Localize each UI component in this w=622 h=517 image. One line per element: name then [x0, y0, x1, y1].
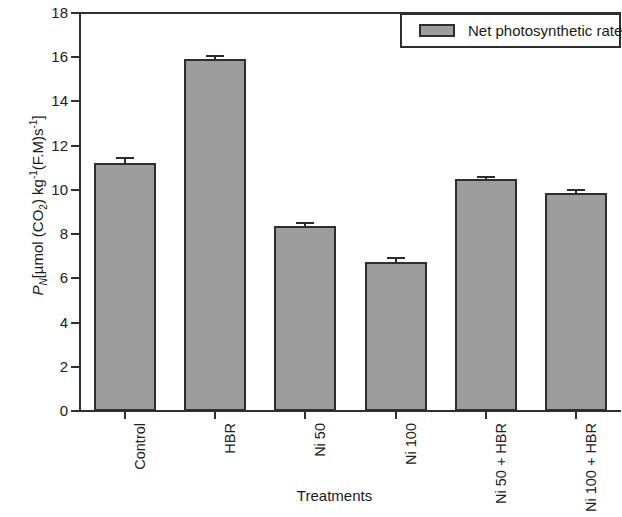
error-bar-cap: [567, 189, 585, 191]
plot-area: [80, 13, 621, 411]
y-axis-co2-subscript: 2: [38, 204, 49, 210]
x-axis-tick-label: Ni 50: [312, 423, 328, 457]
bar-ni-100-hbr: [545, 193, 607, 411]
bar-ni-50: [274, 226, 336, 411]
y-axis-tick: [71, 410, 80, 412]
legend-swatch-net-photosynthetic-rate: [419, 24, 455, 37]
x-axis-tick: [575, 411, 577, 419]
x-axis-tick-label: HBR: [222, 423, 238, 454]
error-bar-cap: [387, 257, 405, 259]
y-axis-tick: [71, 56, 80, 58]
x-axis-tick-label: Control: [132, 423, 148, 470]
y-axis-symbol: P: [29, 286, 46, 296]
bar-ni-50-hbr: [455, 179, 517, 411]
y-axis-tick-label: 18: [24, 5, 68, 20]
y-axis-tick-label: 0: [24, 403, 68, 418]
y-axis-tick: [71, 233, 80, 235]
y-axis-tick: [71, 145, 80, 147]
y-axis-mid: ) kg: [29, 179, 46, 204]
y-axis-tick-label: 16: [24, 49, 68, 64]
y-axis-tick: [71, 12, 80, 14]
y-axis-tick: [71, 366, 80, 368]
y-axis-fm: (F.M)s: [29, 129, 46, 171]
x-axis-tick: [485, 411, 487, 419]
y-axis-sup-2: -1: [28, 120, 39, 129]
y-axis-tick: [71, 322, 80, 324]
legend-box: Net photosynthetic rate: [400, 13, 621, 48]
error-bar-cap: [116, 157, 134, 159]
y-axis-tick: [71, 189, 80, 191]
y-axis-close: ]: [29, 115, 46, 119]
y-axis-tick: [71, 277, 80, 279]
x-axis-title: Treatments: [0, 487, 621, 504]
bar-control: [94, 163, 156, 411]
bar-ni-100: [365, 262, 427, 411]
y-axis-sup-1: -1: [28, 170, 39, 179]
y-axis-symbol-subscript: N: [38, 278, 49, 285]
y-axis-open: [µmol (CO: [29, 210, 46, 279]
error-bar-cap: [206, 55, 224, 57]
x-axis-tick-label: Ni 100: [403, 423, 419, 465]
x-axis-tick: [395, 411, 397, 419]
y-axis-title: PN[µmol (CO2) kg-1(F.M)s-1]: [28, 71, 49, 341]
y-axis-tick-label: 2: [24, 359, 68, 374]
y-axis-tick: [71, 100, 80, 102]
bar-hbr: [184, 59, 246, 411]
legend-label-net-photosynthetic-rate: Net photosynthetic rate: [468, 22, 622, 39]
error-bar-cap: [477, 176, 495, 178]
x-axis-tick: [304, 411, 306, 419]
x-axis-tick: [124, 411, 126, 419]
x-axis-tick: [214, 411, 216, 419]
error-bar-cap: [296, 222, 314, 224]
